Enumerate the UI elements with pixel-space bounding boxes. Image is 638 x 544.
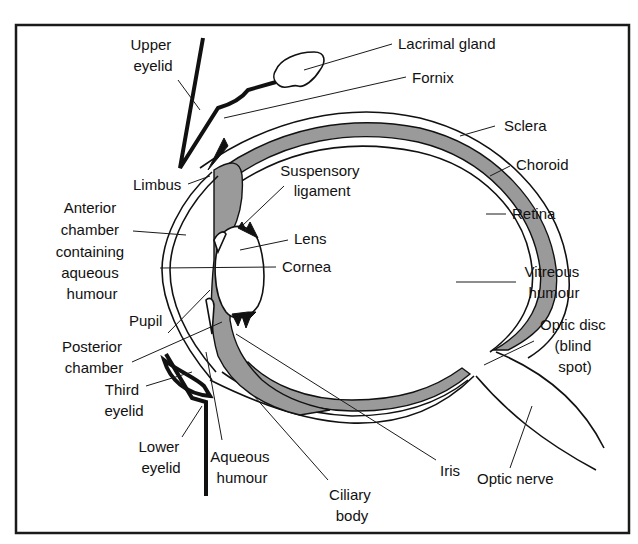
label-fornix: Fornix [412, 69, 454, 86]
label-lens: Lens [294, 230, 327, 247]
label-optic-nerve: Optic nerve [477, 470, 554, 487]
label-limbus: Limbus [133, 176, 181, 193]
label-iris: Iris [440, 462, 460, 479]
label-sclera: Sclera [504, 117, 547, 134]
label-pupil: Pupil [129, 312, 162, 329]
label-cornea: Cornea [282, 258, 332, 275]
label-anterior-chamber: Anterior chamber containing aqueous humo… [56, 199, 129, 302]
eye-anatomy-diagram: Upper eyelid Lacrimal gland Fornix Scler… [0, 0, 638, 544]
label-lacrimal-gland: Lacrimal gland [398, 35, 496, 52]
label-retina: Retina [512, 205, 556, 222]
label-choroid: Choroid [516, 156, 569, 173]
